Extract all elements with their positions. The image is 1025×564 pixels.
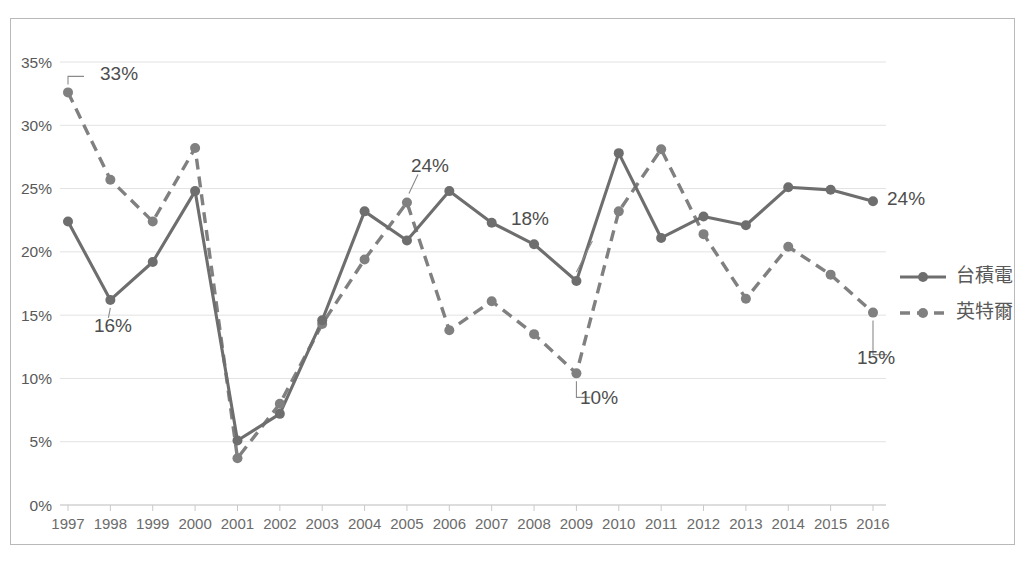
x-axis-tick-label: 2015 [814, 515, 847, 532]
x-axis-tick-label: 2016 [856, 515, 889, 532]
x-axis-tick-label: 2000 [178, 515, 211, 532]
series-line-solid [68, 153, 873, 440]
data-point-marker [783, 182, 793, 192]
data-point-marker [529, 239, 539, 249]
data-point-marker [444, 186, 454, 196]
data-point-marker [317, 315, 327, 325]
legend-entry[interactable]: 英特爾 [900, 301, 1013, 322]
data-label: 24% [411, 155, 449, 176]
data-point-marker [741, 220, 751, 230]
data-label: 24% [887, 188, 925, 209]
y-axis-tick-label: 10% [21, 370, 52, 387]
annotation-leader-line [576, 241, 592, 272]
x-axis-tick-label: 1997 [51, 515, 84, 532]
annotation-leader-line [68, 76, 84, 84]
x-axis-tick-label: 2001 [221, 515, 254, 532]
series-markers-dashed [63, 87, 878, 463]
y-axis-tick-label: 0% [30, 497, 53, 514]
data-point-marker [571, 276, 581, 286]
gridlines [60, 62, 886, 505]
data-point-marker [402, 197, 412, 207]
data-point-marker [105, 295, 115, 305]
x-axis-tick-label: 2007 [475, 515, 508, 532]
series-line-dashed [68, 92, 873, 458]
data-point-marker [232, 435, 242, 445]
data-annotations: 33%16%24%18%10%24%15% [68, 63, 925, 408]
data-point-marker [529, 329, 539, 339]
y-axis-tick-label: 25% [21, 180, 52, 197]
data-label: 15% [857, 347, 895, 368]
data-point-marker [656, 144, 666, 154]
legend-entry[interactable]: 台積電 [900, 265, 1013, 286]
data-point-marker [63, 87, 73, 97]
legend-label: 英特爾 [956, 301, 1013, 322]
data-point-marker [699, 211, 709, 221]
data-point-marker [783, 242, 793, 252]
data-point-marker [360, 206, 370, 216]
x-axis-tick-label: 2003 [306, 515, 339, 532]
data-point-marker [190, 186, 200, 196]
chart-legend: 台積電英特爾 [900, 265, 1013, 322]
x-axis-tick-label: 2006 [433, 515, 466, 532]
x-axis-tick-labels: 1997199819992000200120022003200420052006… [51, 515, 889, 532]
legend-label: 台積電 [956, 265, 1013, 286]
data-point-marker [826, 270, 836, 280]
data-point-marker [571, 368, 581, 378]
data-point-marker [275, 409, 285, 419]
x-axis-tick-label: 2011 [645, 515, 677, 532]
y-axis-tick-label: 15% [21, 307, 52, 324]
data-point-marker [868, 196, 878, 206]
data-label: 10% [580, 387, 618, 408]
line-chart: 0%5%10%15%20%25%30%35% 19971998199920002… [0, 0, 1025, 564]
series-line-solid [68, 153, 873, 440]
data-point-marker [148, 257, 158, 267]
data-point-marker [656, 233, 666, 243]
data-point-marker [105, 175, 115, 185]
data-point-marker [232, 453, 242, 463]
annotation-leader-line [409, 174, 418, 193]
data-label: 18% [511, 208, 549, 229]
y-axis-tick-label: 5% [30, 433, 53, 450]
legend-marker [918, 308, 928, 318]
data-label: 33% [100, 63, 138, 84]
x-axis-tick-label: 2008 [517, 515, 550, 532]
data-point-marker [63, 216, 73, 226]
data-label: 16% [94, 315, 132, 336]
data-point-marker [402, 235, 412, 245]
data-point-marker [444, 325, 454, 335]
data-point-marker [614, 148, 624, 158]
data-point-marker [487, 296, 497, 306]
data-point-marker [360, 254, 370, 264]
y-axis-tick-label: 30% [21, 117, 52, 134]
x-axis-tick-label: 2012 [687, 515, 720, 532]
data-point-marker [148, 216, 158, 226]
data-point-marker [741, 294, 751, 304]
x-axis-tick-label: 2005 [390, 515, 423, 532]
data-point-marker [614, 206, 624, 216]
data-point-marker [868, 308, 878, 318]
series-markers-solid [63, 148, 878, 445]
x-axis-tick-label: 2004 [348, 515, 381, 532]
data-point-marker [487, 218, 497, 228]
x-axis-tick-label: 2002 [263, 515, 296, 532]
series-line-dashed [68, 92, 873, 458]
x-axis-tick-label: 2013 [729, 515, 762, 532]
y-axis-tick-label: 35% [21, 54, 52, 71]
data-point-marker [699, 229, 709, 239]
y-axis-tick-label: 20% [21, 243, 52, 260]
data-point-marker [190, 143, 200, 153]
x-axis [60, 505, 886, 511]
x-axis-tick-label: 2009 [560, 515, 593, 532]
legend-marker [918, 272, 928, 282]
x-axis-tick-label: 1999 [136, 515, 169, 532]
data-point-marker [826, 185, 836, 195]
x-axis-tick-label: 2010 [602, 515, 635, 532]
data-point-marker [275, 399, 285, 409]
y-axis-tick-labels: 0%5%10%15%20%25%30%35% [21, 54, 52, 514]
x-axis-tick-label: 1998 [94, 515, 127, 532]
x-axis-tick-label: 2014 [772, 515, 805, 532]
